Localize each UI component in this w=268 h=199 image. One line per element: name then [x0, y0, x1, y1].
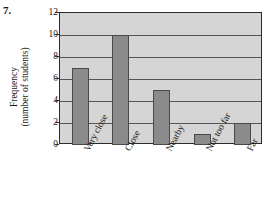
bar-nearby [153, 90, 170, 145]
bar-very-close [72, 68, 89, 145]
gridline-10 [60, 35, 261, 36]
y-axis-title-line-1: Frequency [9, 67, 20, 107]
y-tick-mark-2 [55, 122, 59, 123]
bar-close [112, 35, 129, 145]
y-tick-mark-10 [55, 34, 59, 35]
y-tick-mark-12 [55, 12, 59, 13]
y-tick-mark-0 [55, 144, 59, 145]
problem-number: 7. [3, 4, 11, 16]
y-axis-title-line-2: (number of students) [20, 47, 31, 126]
plot-area [59, 12, 262, 144]
y-tick-mark-4 [55, 100, 59, 101]
y-tick-mark-8 [55, 56, 59, 57]
bar-chart-figure: 7. Frequency (number of students) 024681… [0, 0, 268, 199]
y-tick-mark-6 [55, 78, 59, 79]
y-axis-title: Frequency (number of students) [7, 28, 33, 146]
gridline-8 [60, 57, 261, 58]
gridline-6 [60, 79, 261, 80]
plot-inner [60, 13, 261, 143]
